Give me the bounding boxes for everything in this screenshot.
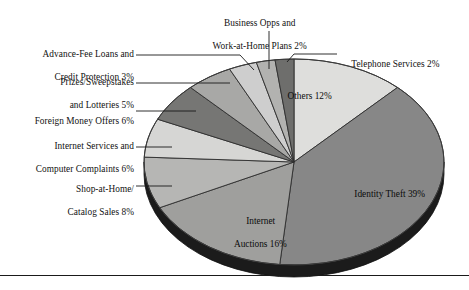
others-label: Others 12% (288, 91, 332, 101)
slice-label-internet-auctions: Internet Auctions 16% (208, 205, 304, 261)
business-opps-line1: Business Opps and (224, 18, 296, 28)
foreign-money-label: Foreign Money Offers 6% (35, 116, 134, 126)
internet-auctions-line2: Auctions 16% (234, 239, 287, 249)
identity-theft-label: Identity Theft 39% (354, 189, 425, 199)
internet-services-line1: Internet Services and (54, 141, 134, 151)
business-opps-line2: Work-at-Home Plans 2% (213, 41, 307, 51)
shop-at-home-line2: Catalog Sales 8% (68, 207, 134, 217)
slice-label-identity-theft: Identity Theft 39% (330, 178, 440, 212)
slice-label-shop-at-home: Shop-at-Home/ Catalog Sales 8% (8, 173, 134, 229)
internet-auctions-line1: Internet (246, 216, 275, 226)
slice-label-telephone-services: Telephone Services 2% (342, 48, 468, 82)
advance-fee-line1: Advance-Fee Loans and (43, 49, 134, 59)
slice-label-others: Others 12% (260, 80, 350, 114)
prizes-line1: Prizes/Sweepstakes (60, 77, 134, 87)
pie-chart-figure: Business Opps and Work-at-Home Plans 2% … (0, 0, 469, 290)
telephone-label: Telephone Services 2% (351, 59, 439, 69)
bottom-divider-rule (0, 275, 469, 276)
shop-at-home-line1: Shop-at-Home/ (76, 184, 134, 194)
slice-label-business-opps: Business Opps and Work-at-Home Plans 2% (170, 7, 340, 63)
